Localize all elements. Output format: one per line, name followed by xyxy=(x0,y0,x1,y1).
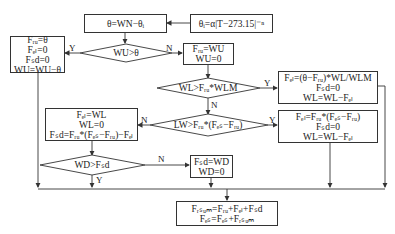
wu-yes-box: Fᵣᵤ=θ Fₑₗ=0 Fₛd=0 WU=WU−θ xyxy=(10,36,65,73)
final-line-2: Fₑₛ=Fₑₛ+Fᵣₛᵤₘ xyxy=(200,214,255,224)
final-line-1: Fᵣₛᵤₘ=Fᵣᵤ+Fₑₗ+Fₛd xyxy=(192,204,263,214)
wu-yes-line-2: Fₑₗ=0 xyxy=(28,45,48,55)
wd-no-line-1: Fₛd=WD xyxy=(194,157,229,167)
wl-yes-label: Y xyxy=(264,79,271,88)
wl-check-text: WL>Fᵣᵤ*WLM xyxy=(179,83,238,93)
lw-yes-box: Fₑₗ=Fᵣᵤ*(Fₑₛ−Fᵣᵤ) Fₛd=0 WL=WL−Fₑₗ xyxy=(278,110,378,143)
wd-no-label: N xyxy=(158,155,165,164)
lw-yes-label: Y xyxy=(269,116,276,125)
lw-no-line-2: WL=0 xyxy=(79,120,104,130)
wl-yes-line-3: WL=WL−Fₑₗ xyxy=(303,93,353,103)
wu-no-line-2: WU=0 xyxy=(196,54,222,64)
wu-check-text: WU>θ xyxy=(113,48,139,58)
wd-yes-label: Y xyxy=(96,176,103,185)
wd-check-text: WD>Fₛd xyxy=(74,160,109,170)
wu-yes-label: Y xyxy=(69,44,76,53)
lw-yes-line-2: Fₛd=0 xyxy=(316,122,340,132)
lw-no-line-3: Fₛd=Fᵣᵤ*(Fₑₛ−Fᵣᵤ)−Fₑₗ xyxy=(50,130,134,140)
wd-no-line-2: WD=0 xyxy=(199,167,225,177)
theta-calc-box: θ=WN−θᵢ xyxy=(84,14,167,33)
lw-check-text: LW>Fᵣᵤ*(Fₑₛ−Fᵣᵤ) xyxy=(174,120,243,130)
wu-yes-line-3: Fₛd=0 xyxy=(25,55,49,65)
wu-yes-line-4: WU=WU−θ xyxy=(14,65,61,75)
lw-no-line-1: Fₑₗ=WL xyxy=(77,110,107,120)
theta-i-text: θᵢ=α|T−273.15|⁻ⁿ xyxy=(199,19,265,29)
theta-i-box: θᵢ=α|T−273.15|⁻ⁿ xyxy=(190,14,273,33)
wl-yes-line-2: Fₛd=0 xyxy=(316,83,340,93)
wu-no-box: Fᵣᵤ=WU WU=0 xyxy=(183,43,234,65)
wl-yes-box: Fₑₗ=(θ−Fᵣᵤ)*WL/WLM Fₛd=0 WL=WL−Fₑₗ xyxy=(278,71,378,104)
wl-no-label: N xyxy=(211,101,218,110)
wd-no-box: Fₛd=WD WD=0 xyxy=(190,155,233,178)
final-box: Fᵣₛᵤₘ=Fᵣᵤ+Fₑₗ+Fₛd Fₑₛ=Fₑₛ+Fᵣₛᵤₘ xyxy=(176,201,278,226)
wu-no-line-1: Fᵣᵤ=WU xyxy=(193,44,225,54)
lw-no-label: N xyxy=(141,116,148,125)
lw-yes-line-3: WL=WL−Fₑₗ xyxy=(303,132,353,142)
lw-yes-line-1: Fₑₗ=Fᵣᵤ*(Fₑₛ−Fᵣᵤ) xyxy=(296,112,360,122)
wu-no-label: N xyxy=(166,44,173,53)
wl-yes-line-1: Fₑₗ=(θ−Fᵣᵤ)*WL/WLM xyxy=(284,73,371,83)
theta-calc-text: θ=WN−θᵢ xyxy=(107,19,144,29)
lw-no-box: Fₑₗ=WL WL=0 Fₛd=Fᵣᵤ*(Fₑₛ−Fᵣᵤ)−Fₑₗ xyxy=(45,108,138,141)
wu-yes-line-1: Fᵣᵤ=θ xyxy=(27,35,47,45)
